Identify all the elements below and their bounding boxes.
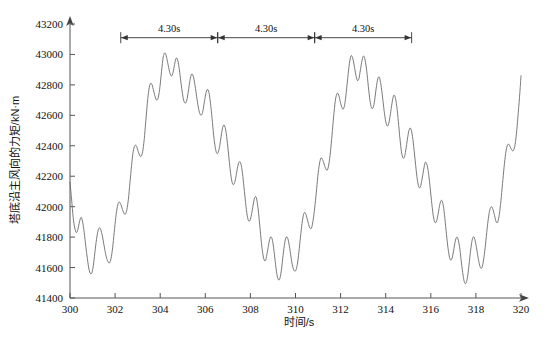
chart-figure: 塔底沿主风向的力矩/kN·m 时间/s 41400416004180042000… bbox=[0, 0, 546, 338]
y-tick-label: 42000 bbox=[36, 201, 64, 213]
y-axis-title: 塔底沿主风向的力矩/kN·m bbox=[8, 96, 21, 224]
x-tick-label: 318 bbox=[468, 303, 485, 315]
y-tick-label: 41800 bbox=[36, 231, 64, 243]
annotation-arrowhead-right bbox=[405, 35, 412, 40]
axes bbox=[66, 16, 529, 302]
annotation-arrowhead-left bbox=[121, 35, 128, 40]
y-axis-ticks: 4140041600418004200042200424004260042800… bbox=[36, 18, 76, 304]
moment-time-history-chart: 塔底沿主风向的力矩/kN·m 时间/s 41400416004180042000… bbox=[0, 0, 546, 338]
x-tick-label: 300 bbox=[62, 303, 79, 315]
x-tick-label: 306 bbox=[197, 303, 214, 315]
y-tick-label: 41400 bbox=[36, 292, 64, 304]
y-tick-label: 42200 bbox=[36, 170, 64, 182]
period-annotation: 4.30s bbox=[121, 22, 218, 44]
y-tick-label: 42600 bbox=[36, 109, 64, 121]
y-tick-label: 43000 bbox=[36, 48, 64, 60]
annotation-label: 4.30s bbox=[158, 23, 180, 34]
series-line-moment bbox=[70, 53, 521, 284]
x-tick-label: 302 bbox=[107, 303, 124, 315]
annotation-arrowhead-right bbox=[308, 35, 315, 40]
x-axis-ticks: 300302304306308310312314316318320 bbox=[62, 293, 530, 315]
y-tick-label: 43200 bbox=[36, 18, 64, 30]
annotation-arrowhead-right bbox=[211, 35, 218, 40]
annotation-arrowhead-left bbox=[218, 35, 225, 40]
x-tick-label: 312 bbox=[332, 303, 349, 315]
x-tick-label: 314 bbox=[377, 303, 394, 315]
annotation-arrowhead-left bbox=[315, 35, 322, 40]
annotation-label: 4.30s bbox=[255, 23, 277, 34]
data-series-group bbox=[70, 53, 521, 284]
x-tick-label: 308 bbox=[242, 303, 259, 315]
y-tick-label: 42400 bbox=[36, 140, 64, 152]
period-annotation: 4.30s bbox=[218, 22, 315, 44]
x-tick-label: 320 bbox=[513, 303, 530, 315]
period-annotations: 4.30s4.30s4.30s bbox=[121, 22, 412, 44]
x-tick-label: 316 bbox=[423, 303, 440, 315]
period-annotation: 4.30s bbox=[315, 22, 412, 44]
annotation-label: 4.30s bbox=[352, 23, 374, 34]
x-tick-label: 310 bbox=[287, 303, 304, 315]
y-tick-label: 42800 bbox=[36, 79, 64, 91]
x-axis-title: 时间/s bbox=[284, 316, 315, 328]
x-tick-label: 304 bbox=[152, 303, 169, 315]
y-tick-label: 41600 bbox=[36, 262, 64, 274]
